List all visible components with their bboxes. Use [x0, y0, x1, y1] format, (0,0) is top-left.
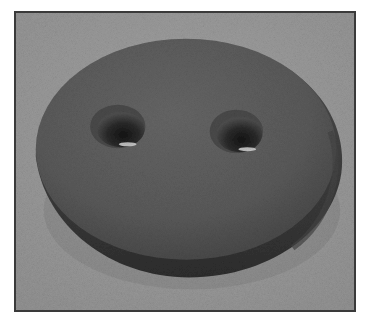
button-hole-right [210, 110, 263, 153]
button-render [16, 13, 354, 310]
image-frame: Grayscale 3D render of a round two-hole … [14, 11, 356, 312]
button-face [36, 39, 336, 260]
button-hole-left [90, 105, 145, 148]
